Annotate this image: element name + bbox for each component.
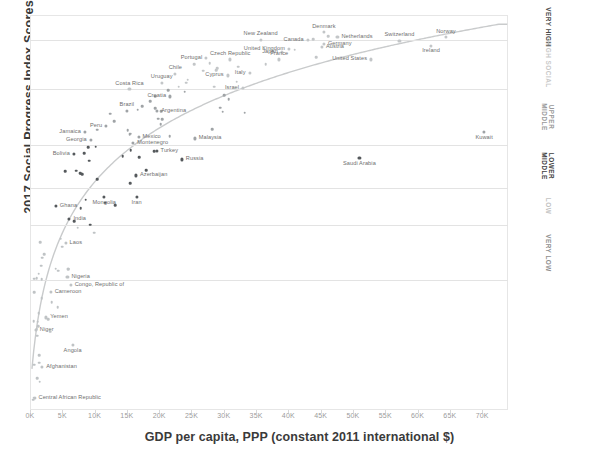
data-point-label: Georgia <box>66 137 87 143</box>
gridline <box>30 145 508 146</box>
data-point <box>36 334 39 337</box>
data-point-label: United States <box>332 57 367 63</box>
data-point <box>76 226 79 229</box>
data-point <box>61 246 64 249</box>
data-point-label: Uruguay <box>151 75 173 81</box>
data-point <box>56 306 59 309</box>
data-point-label: Ireland <box>422 49 440 55</box>
trend-curve <box>30 15 508 410</box>
data-point-label: Ghana <box>60 204 77 210</box>
data-point-label: Mongolia <box>93 200 117 206</box>
x-tick-label: 45K <box>314 412 327 419</box>
data-point-label: Denmark <box>312 24 335 30</box>
data-point <box>39 241 42 244</box>
data-point <box>35 277 38 280</box>
data-point <box>216 67 219 70</box>
data-point <box>84 198 87 201</box>
data-point <box>161 118 164 121</box>
x-tick-label: 65K <box>443 412 456 419</box>
data-point-label: Montenegro <box>137 141 168 147</box>
data-point <box>211 128 214 131</box>
data-point <box>89 223 92 226</box>
gridline <box>30 40 508 41</box>
data-point-label: India <box>73 216 86 222</box>
data-point-label: Costa Rica <box>115 81 143 87</box>
data-point-label: Turkey <box>161 148 179 154</box>
data-point <box>160 123 163 126</box>
tier-label-line: LOWER <box>548 152 555 180</box>
data-point-label: Croatia <box>147 94 166 100</box>
x-tick-label: 25K <box>185 412 198 419</box>
data-point-label: Czech Republic <box>210 51 251 57</box>
data-point-label: Russia <box>186 157 204 163</box>
tier-label: UPPERMIDDLE <box>541 103 555 131</box>
data-point-label: Switzerland <box>384 33 414 39</box>
data-point-label: Angola <box>64 348 82 354</box>
data-point-label: Niger <box>40 327 54 333</box>
data-point <box>79 172 82 175</box>
data-point <box>36 320 39 323</box>
data-point-label: Chile <box>169 65 182 71</box>
data-point <box>80 207 83 210</box>
data-point <box>227 98 230 101</box>
data-point <box>183 91 186 94</box>
gridline <box>30 188 508 189</box>
data-point <box>87 146 90 149</box>
x-tick-label: 20K <box>153 412 166 419</box>
tier-label: HIGH SOCIAL <box>545 41 552 88</box>
plot-area: NorwaySwitzerlandDenmarkNetherlandsCanad… <box>30 15 508 410</box>
data-point <box>33 291 36 294</box>
data-point <box>33 363 36 366</box>
data-point <box>202 69 205 72</box>
data-point-label: Nigeria <box>71 275 89 281</box>
x-tick-label: 60K <box>411 412 424 419</box>
data-point-label: Portugal <box>181 55 203 61</box>
data-point-label: Malaysia <box>199 136 222 142</box>
data-point <box>193 63 196 66</box>
data-point-label: Bolivia <box>53 151 70 157</box>
data-point <box>113 120 116 123</box>
data-point <box>141 105 144 108</box>
data-point <box>312 38 315 41</box>
gridline <box>30 225 508 226</box>
x-tick-label: 40K <box>282 412 295 419</box>
data-point <box>168 135 171 138</box>
data-point <box>88 159 91 162</box>
data-point <box>32 320 35 323</box>
data-point <box>157 117 160 120</box>
gridline <box>30 89 508 90</box>
data-point <box>57 269 60 272</box>
data-point <box>237 65 240 68</box>
data-point <box>40 297 43 300</box>
x-tick-label: 35K <box>250 412 263 419</box>
data-point <box>64 170 67 173</box>
data-point-label: France <box>270 51 288 57</box>
tier-label-line: UPPER <box>548 103 555 131</box>
data-point-label: New Zealand <box>244 31 278 37</box>
data-point <box>264 63 267 66</box>
data-point <box>126 129 129 132</box>
data-point <box>38 361 41 364</box>
data-point-label: Italy <box>235 70 246 76</box>
data-point <box>96 178 99 181</box>
data-point <box>208 62 211 65</box>
tier-label-line: LOW <box>545 198 552 214</box>
data-point <box>129 182 132 185</box>
tier-label-line: MIDDLE <box>541 103 548 131</box>
data-point-label: Brazil <box>120 102 135 108</box>
data-point <box>327 35 330 38</box>
data-point <box>93 232 96 235</box>
data-point <box>67 267 70 270</box>
data-point <box>38 354 41 357</box>
data-point <box>94 145 97 148</box>
data-point-label: Netherlands <box>341 34 372 40</box>
data-point <box>213 85 216 88</box>
data-point <box>37 312 40 315</box>
data-point <box>60 238 63 241</box>
x-tick-label: 50K <box>346 412 359 419</box>
data-point-label: Saudi Arabia <box>343 161 376 167</box>
data-point <box>109 112 112 115</box>
data-point <box>36 377 39 380</box>
data-point-label: Norway <box>436 29 456 35</box>
data-point-label: Central African Republic <box>39 395 101 401</box>
